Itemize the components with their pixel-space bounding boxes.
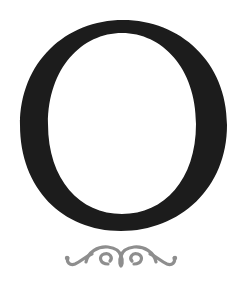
- drop-cap-letter-o: O: [0, 0, 241, 286]
- scroll-flourish-icon: [0, 0, 241, 286]
